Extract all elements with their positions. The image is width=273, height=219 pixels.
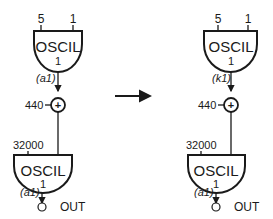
right-osc1-out: (k1) [212, 72, 231, 84]
right-osc2-out: (a1) [194, 186, 214, 198]
left-osc2-name: OSCIL [20, 162, 65, 179]
left-osc2-table: 1 [40, 178, 46, 190]
right-diagram: 5 1 OSCIL 1 (k1) 440 + 32000 OSCIL 1 (a1… [186, 12, 260, 214]
svg-text:+: + [228, 99, 234, 111]
diagram-canvas: 5 1 OSCIL 1 (a1) 440 + 32000 OSCIL 1 (a1… [0, 0, 273, 219]
left-osc1-amp: 5 [38, 12, 45, 26]
right-output-icon [212, 203, 220, 211]
left-osc1-freq: 1 [70, 12, 77, 26]
svg-text:+: + [55, 99, 61, 111]
left-osc2-out: (a1) [20, 186, 40, 198]
left-output-label: OUT [60, 200, 86, 214]
right-osc2-name: OSCIL [193, 162, 238, 179]
right-adder-value: 440 [198, 99, 216, 111]
left-osc1-out: (a1) [36, 72, 56, 84]
right-osc2-table: 1 [213, 178, 219, 190]
left-output-icon [38, 203, 46, 211]
left-osc2-amp: 32000 [13, 139, 44, 151]
right-osc1-amp: 5 [215, 12, 222, 26]
left-diagram: 5 1 OSCIL 1 (a1) 440 + 32000 OSCIL 1 (a1… [13, 12, 86, 214]
right-output-label: OUT [234, 200, 260, 214]
right-osc1-table: 1 [228, 55, 234, 67]
right-osc2-amp: 32000 [186, 139, 217, 151]
right-osc1-freq: 1 [245, 12, 252, 26]
right-osc1-name: OSCIL [208, 38, 253, 55]
left-osc1-table: 1 [55, 55, 61, 67]
left-adder-value: 440 [25, 99, 43, 111]
left-osc1-name: OSCIL [35, 38, 80, 55]
